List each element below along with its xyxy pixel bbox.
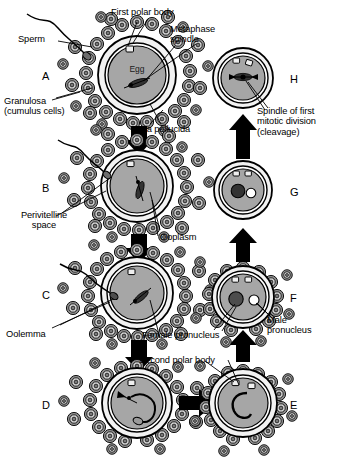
label-granulosa: Granulosa (cumulus cells) xyxy=(4,96,65,117)
flow-arrow-f-to-g xyxy=(229,228,257,262)
panel-g-zygote-pronuclei-fusing xyxy=(214,161,272,219)
panel-letter-d: D xyxy=(42,399,50,411)
label-ooplasm: Ooplasm xyxy=(160,232,197,242)
label-second-polar-body: Second polar body xyxy=(139,355,215,365)
panel-g-male-pronucleus xyxy=(246,188,256,198)
label-male-pronucleus: Male pronucleus xyxy=(267,315,311,336)
label-spindle-first-mitotic: Spindle of first mitotic division (cleav… xyxy=(257,106,316,137)
label-metaphase-spindle: Metaphase spindle xyxy=(170,24,215,45)
label-female-pronucleus: Female pronucleus xyxy=(142,330,219,340)
panel-e-zygote xyxy=(190,361,298,457)
panel-h-zygote-mitotic-spindle xyxy=(213,48,273,110)
egg-label: Egg xyxy=(129,64,144,74)
panel-f-female-pronucleus xyxy=(229,292,243,306)
fertilization-diagram: Egg A xyxy=(0,0,338,462)
panel-letter-f: F xyxy=(290,292,297,304)
flow-arrow-g-to-h xyxy=(229,114,257,159)
panel-e-second-polar-body xyxy=(248,383,255,389)
panel-letter-g: G xyxy=(290,186,299,198)
panel-letter-e: E xyxy=(290,399,297,411)
figure-canvas: Egg A xyxy=(0,0,338,462)
label-sperm: Sperm xyxy=(18,34,45,44)
panel-letter-b: B xyxy=(42,182,49,194)
panel-letter-c: C xyxy=(42,289,50,301)
label-oolemma: Oolemma xyxy=(6,329,46,339)
panel-letter-a: A xyxy=(42,70,50,82)
panel-letter-h: H xyxy=(290,73,298,85)
label-zona-pellucida: Zona pellucida xyxy=(131,124,190,134)
label-perivitelline-space: Perivitelline space xyxy=(2,210,86,231)
panel-g-female-pronucleus xyxy=(231,184,245,198)
label-first-polar-body: First polar body xyxy=(111,7,173,17)
